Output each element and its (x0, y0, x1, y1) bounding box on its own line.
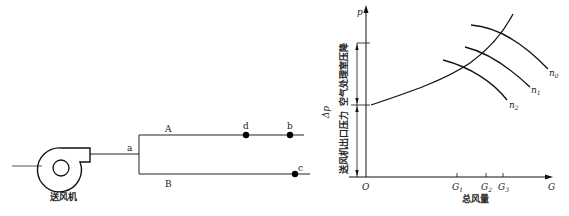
y-axis-arrow-icon (364, 5, 369, 13)
point-c-label: c (298, 163, 303, 173)
point-b-marker (287, 132, 293, 138)
x-axis-end-label: G (548, 182, 555, 192)
tick-label-G1: G1 (452, 182, 463, 193)
fan-label: 送风机 (49, 191, 77, 202)
pressure-flow-chart: p G O G1 G2 G3 总风量 空气处理室压降 送风机出口压力 Δp n0 (321, 5, 559, 204)
node-a-label: a (127, 143, 133, 153)
upper-dim-label: 空气处理室压降 (338, 42, 349, 106)
point-d-marker (243, 132, 249, 138)
lower-dim-label: 送风机出口压力 (338, 111, 349, 175)
figure: 送风机 a A d b B c p G O G1 G2 G3 (0, 0, 569, 216)
curve-label-n2: n2 (509, 100, 519, 111)
tick-label-G2: G2 (481, 182, 492, 193)
dim-arrow-icon (355, 170, 358, 176)
system-curve (371, 14, 513, 105)
y-axis-label: p (357, 7, 363, 17)
fan-curve-n2 (443, 60, 507, 100)
point-d-label: d (243, 121, 249, 131)
fan-icon (37, 148, 90, 192)
duct-system-diagram: 送风机 a A d b B c (12, 121, 310, 202)
x-axis-title: 总风量 (462, 193, 489, 204)
curve-label-n1: n1 (531, 85, 541, 96)
dim-arrow-icon (355, 106, 358, 112)
x-axis-arrow-icon (545, 175, 553, 180)
fan-curve-n0 (471, 25, 548, 69)
dim-arrow-icon (355, 44, 358, 50)
fan-curve-n1 (465, 47, 530, 87)
delta-p-label: Δp (321, 106, 331, 119)
point-b-label: b (287, 121, 293, 131)
branch-B-label: B (165, 179, 172, 189)
branch-A-label: A (164, 124, 172, 134)
curve-label-n0: n0 (549, 68, 559, 79)
tick-label-G3: G3 (498, 182, 509, 193)
dim-arrow-icon (355, 98, 358, 104)
origin-label: O (362, 182, 370, 192)
